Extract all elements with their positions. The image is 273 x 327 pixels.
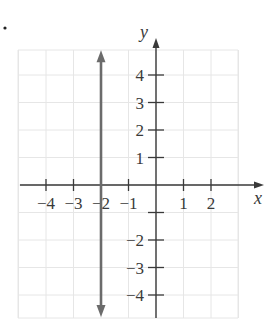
- y-axis: [153, 38, 160, 318]
- x-tick-label: −1: [119, 194, 137, 213]
- y-tick-label: 4: [136, 66, 145, 85]
- series-line: [97, 50, 106, 317]
- x-tick-label: 2: [207, 194, 216, 213]
- y-axis-label: y: [138, 22, 148, 42]
- y-tick-label: 2: [136, 121, 145, 140]
- coordinate-plane: −4−3−2−112 4321−2−3−4 x y: [0, 0, 273, 327]
- x-tick-label: −4: [37, 194, 56, 213]
- y-tick-label: −4: [126, 286, 145, 305]
- y-tick-label: 1: [136, 149, 145, 168]
- bullet-dot: [3, 26, 6, 29]
- x-axis: [20, 182, 264, 189]
- x-axis-label: x: [253, 188, 262, 208]
- arrow-down-icon: [97, 305, 106, 317]
- y-tick-label: −2: [126, 231, 144, 250]
- x-tick-label: −3: [64, 194, 82, 213]
- y-tick-label: −3: [126, 259, 144, 278]
- y-axis-arrow-icon: [153, 38, 160, 48]
- x-tick-label: 1: [179, 194, 188, 213]
- y-tick-label: 3: [136, 94, 145, 113]
- arrow-up-icon: [97, 50, 106, 62]
- x-ticks: −4−3−2−112: [37, 179, 215, 213]
